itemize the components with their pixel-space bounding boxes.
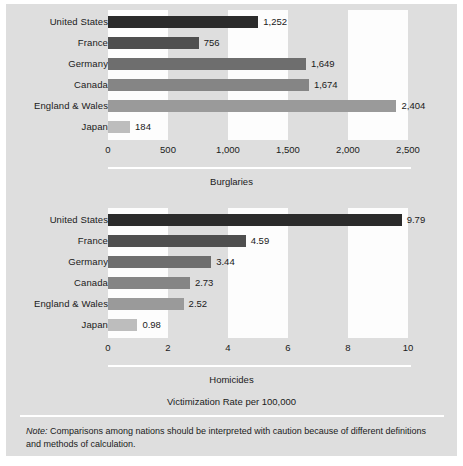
- bar: [108, 235, 246, 247]
- chart-title-homicides: Homicides: [6, 374, 457, 385]
- note-divider-rule: [20, 415, 444, 417]
- axis-tick-label: 6: [285, 342, 290, 353]
- bar-row: United States9.79: [6, 210, 457, 230]
- category-label: Germany: [68, 252, 108, 272]
- bar: [108, 100, 396, 112]
- bar-value-label: 1,649: [311, 54, 335, 74]
- bar-row: England & Wales2.52: [6, 294, 457, 314]
- axis-tick-label: 2: [165, 342, 170, 353]
- axis-tick-label: 0: [105, 342, 110, 353]
- category-label: United States: [50, 210, 108, 230]
- bar-row: Canada2.73: [6, 273, 457, 293]
- bar: [108, 277, 190, 289]
- bar-value-label: 2.73: [195, 273, 214, 293]
- axis-tick-label: 4: [225, 342, 230, 353]
- category-label: France: [78, 33, 108, 53]
- bar-row: France756: [6, 33, 457, 53]
- category-label: England & Wales: [34, 294, 108, 314]
- bar-row: England & Wales2,404: [6, 96, 457, 116]
- figure-note: Note: Comparisons among nations should b…: [26, 425, 441, 451]
- bar-rows-burglaries: United States1,252France756Germany1,649C…: [6, 12, 457, 138]
- axis-tick-label: 500: [160, 144, 176, 155]
- note-body: Comparisons among nations should be inte…: [26, 426, 426, 449]
- note-label: Note:: [26, 426, 48, 436]
- axis-caption: Victimization Rate per 100,000: [6, 396, 457, 407]
- axis-tick-label: 2,000: [336, 144, 360, 155]
- category-label: Japan: [82, 117, 108, 137]
- bar-row: Germany3.44: [6, 252, 457, 272]
- chart-homicides: United States9.79France4.59Germany3.44Ca…: [6, 202, 457, 372]
- bar: [108, 37, 199, 49]
- chart-title-burglaries: Burglaries: [6, 176, 457, 187]
- bar: [108, 58, 306, 70]
- bar-value-label: 2,404: [401, 96, 425, 116]
- bar-rows-homicides: United States9.79France4.59Germany3.44Ca…: [6, 210, 457, 336]
- bar-row: United States1,252: [6, 12, 457, 32]
- bar-value-label: 184: [135, 117, 151, 137]
- category-label: Germany: [68, 54, 108, 74]
- x-axis-homicides: 0246810: [108, 342, 408, 356]
- category-label: France: [78, 231, 108, 251]
- bar-value-label: 756: [204, 33, 220, 53]
- bar-row: Japan0.98: [6, 315, 457, 335]
- bar-row: Canada1,674: [6, 75, 457, 95]
- bar: [108, 298, 184, 310]
- category-label: Japan: [82, 315, 108, 335]
- axis-tick-label: 1,000: [216, 144, 240, 155]
- bar: [108, 121, 130, 133]
- bar-row: Germany1,649: [6, 54, 457, 74]
- bar-row: Japan184: [6, 117, 457, 137]
- bar: [108, 319, 137, 331]
- category-label: United States: [50, 12, 108, 32]
- bar-value-label: 4.59: [251, 231, 270, 251]
- bar-value-label: 9.79: [407, 210, 426, 230]
- chart-divider-rule-2: [108, 365, 411, 367]
- axis-tick-label: 10: [403, 342, 414, 353]
- bar-value-label: 0.98: [142, 315, 161, 335]
- axis-tick-label: 1,500: [276, 144, 300, 155]
- axis-tick-label: 8: [345, 342, 350, 353]
- chart-burglaries: United States1,252France756Germany1,649C…: [6, 4, 457, 174]
- axis-tick-label: 2,500: [396, 144, 420, 155]
- axis-tick-label: 0: [105, 144, 110, 155]
- bar-value-label: 1,252: [263, 12, 287, 32]
- bar-value-label: 3.44: [216, 252, 235, 272]
- bar: [108, 256, 211, 268]
- bar-row: France4.59: [6, 231, 457, 251]
- bar: [108, 79, 309, 91]
- bar: [108, 16, 258, 28]
- bar-value-label: 1,674: [314, 75, 338, 95]
- figure-panel: United States1,252France756Germany1,649C…: [6, 4, 457, 456]
- bar-value-label: 2.52: [189, 294, 208, 314]
- bar: [108, 214, 402, 226]
- x-axis-burglaries: 05001,0001,5002,0002,500: [108, 144, 408, 158]
- chart-divider-rule-1: [108, 167, 411, 169]
- category-label: Canada: [74, 273, 108, 293]
- category-label: Canada: [74, 75, 108, 95]
- category-label: England & Wales: [34, 96, 108, 116]
